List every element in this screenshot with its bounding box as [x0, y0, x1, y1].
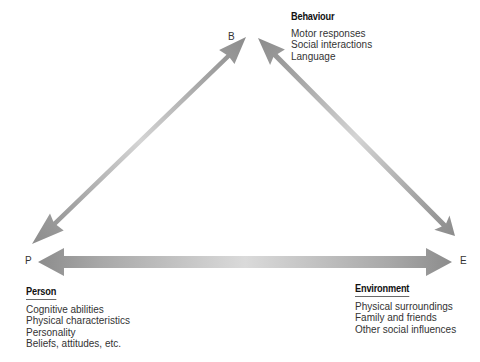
person-item: Physical characteristics	[26, 315, 130, 327]
behaviour-item: Social interactions	[291, 39, 372, 51]
node-letter-behaviour: B	[228, 32, 235, 42]
environment-description: Environment Physical surroundings Family…	[355, 283, 456, 335]
behaviour-item: Motor responses	[291, 28, 372, 40]
behaviour-heading: Behaviour	[291, 11, 334, 23]
arrow-behaviour-environment-shape	[258, 38, 455, 236]
arrow-person-environment-shape	[38, 248, 452, 276]
node-letter-person: P	[25, 256, 32, 266]
node-letter-environment: E	[460, 256, 467, 266]
environment-item: Physical surroundings	[355, 301, 456, 313]
person-item: Cognitive abilities	[26, 304, 130, 316]
person-heading: Person	[26, 286, 56, 300]
environment-item: Other social influences	[355, 324, 456, 336]
person-item: Personality	[26, 327, 130, 339]
behaviour-item: Language	[291, 51, 372, 63]
arrow-person-behaviour-shape	[32, 37, 246, 244]
person-item: Beliefs, attitudes, etc.	[26, 338, 130, 350]
behaviour-description: Behaviour Motor responses Social interac…	[291, 11, 372, 62]
environment-item: Family and friends	[355, 312, 456, 324]
person-description: Person Cognitive abilities Physical char…	[26, 286, 130, 350]
environment-heading: Environment	[355, 283, 409, 297]
